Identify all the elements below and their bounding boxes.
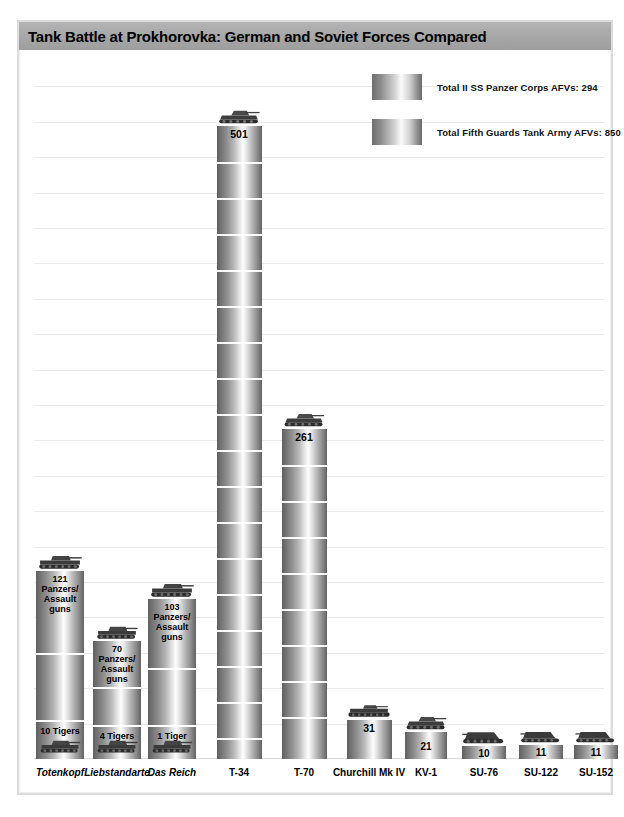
bar-segment-panzers-label: 103Panzers/Assault guns (148, 602, 196, 642)
bar-ring (217, 558, 262, 560)
bar-ring (282, 465, 327, 467)
bar-ring (217, 666, 262, 668)
bar-column-dasreich[interactable]: 103Panzers/Assault guns1 Tiger (148, 599, 196, 759)
chart-title-band: Tank Battle at Prokhorovka: German and S… (19, 22, 611, 50)
bar-ring (217, 342, 262, 344)
chart-page: Tank Battle at Prokhorovka: German and S… (0, 0, 624, 817)
bar-column-su76[interactable]: 10 (462, 746, 506, 759)
tank-icon-churchill (347, 701, 391, 719)
bar-group: 121Panzers/Assault guns10 Tigers70 Panze… (34, 51, 604, 759)
bar-ring (217, 702, 262, 704)
x-axis-label-dasreich: Das Reich (148, 767, 196, 778)
x-axis-label-su152: SU-152 (579, 767, 613, 778)
bar-rings (217, 126, 262, 759)
bar-segment-panzers: 121Panzers/Assault guns (36, 571, 84, 720)
bar-kv1: 21 (405, 732, 447, 759)
bar-ring (217, 414, 262, 416)
bar-ring (217, 450, 262, 452)
bar-column-kv1[interactable]: 21 (405, 732, 447, 759)
tiger-tank-icon (39, 736, 81, 758)
bar-ring (282, 717, 327, 719)
chart-title: Tank Battle at Prokhorovka: German and S… (19, 28, 486, 45)
bar-ring (217, 486, 262, 488)
tank-icon-t34 (217, 107, 261, 125)
tiger-tank-icon (151, 736, 193, 758)
bar-segment-panzers: 103Panzers/Assault guns (148, 599, 196, 725)
bar-t70: 261 (282, 429, 327, 759)
bar-ring (282, 645, 327, 647)
x-axis-label-su76: SU-76 (470, 767, 498, 778)
bar-ring (36, 653, 84, 655)
bar-su122: 11 (519, 745, 563, 759)
bar-value-label-t34: 501 (217, 129, 262, 141)
bar-t34: 501 (217, 126, 262, 759)
x-axis-label-su122: SU-122 (524, 767, 558, 778)
x-axis-label-t34: T-34 (229, 767, 249, 778)
bar-column-churchill[interactable]: 31 (347, 720, 392, 759)
bar-column-liebstandarte[interactable]: 70 Panzers/Assault guns4 Tigers (93, 641, 141, 760)
x-axis-labels: TotenkopfLiebstandarteDas ReichT-34T-70C… (34, 767, 624, 787)
bar-churchill: 31 (347, 720, 392, 759)
bar-value-label-churchill: 31 (347, 723, 392, 735)
tank-icon-totenkopf (37, 551, 83, 570)
tiger-tank-icon (96, 736, 138, 758)
bar-su76: 10 (462, 746, 506, 759)
bar-ring (148, 668, 196, 670)
bar-rings (282, 429, 327, 759)
bar-segment-panzers-label: 70 Panzers/Assault guns (93, 644, 141, 684)
bar-segment-tigers: 10 Tigers (36, 720, 84, 759)
bar-value-label-su122: 11 (519, 747, 563, 758)
bar-ring (217, 630, 262, 632)
bar-su152: 11 (574, 745, 618, 759)
bar-segment-tigers: 1 Tiger (148, 725, 196, 759)
x-axis-label-t70: T-70 (294, 767, 314, 778)
tank-icon-su152 (574, 726, 618, 744)
bar-ring (217, 234, 262, 236)
tank-icon-liebstandarte (95, 622, 139, 640)
bar-value-label-su76: 10 (462, 747, 506, 758)
bar-ring (217, 198, 262, 200)
bar-ring (282, 573, 327, 575)
bar-ring (282, 501, 327, 503)
bar-ring (217, 306, 262, 308)
bar-segment-tigers: 4 Tigers (93, 725, 141, 759)
bar-ring (217, 738, 262, 740)
bar-value-label-t70: 261 (282, 432, 327, 444)
bar-segment-panzers: 70 Panzers/Assault guns (93, 641, 141, 726)
bar-ring (217, 594, 262, 596)
bar-column-totenkopf[interactable]: 121Panzers/Assault guns10 Tigers (36, 571, 84, 759)
tank-icon-kv1 (405, 713, 447, 731)
bar-ring (217, 162, 262, 164)
bar-segment-panzers-label: 121Panzers/Assault guns (36, 574, 84, 614)
tank-icon-su122 (519, 726, 563, 744)
x-axis-label-kv1: KV-1 (415, 767, 437, 778)
bar-column-su122[interactable]: 11 (519, 745, 563, 759)
x-axis-label-churchill: Churchill Mk IV (333, 767, 405, 778)
bar-ring (93, 687, 141, 689)
bar-segment-tigers-label: 10 Tigers (36, 726, 84, 736)
tank-icon-t70 (283, 410, 325, 428)
tank-icon-dasreich (149, 579, 195, 598)
tank-icon-su76 (461, 726, 507, 745)
bar-ring (217, 522, 262, 524)
x-axis-label-liebstandarte: Liebstandarte (84, 767, 150, 778)
bar-ring (282, 537, 327, 539)
bar-value-label-kv1: 21 (405, 740, 447, 751)
x-axis-label-totenkopf: Totenkopf (36, 767, 84, 778)
bar-ring (282, 681, 327, 683)
bar-column-t34[interactable]: 501 (217, 126, 262, 759)
bar-ring (282, 609, 327, 611)
bar-ring (217, 378, 262, 380)
bar-ring (217, 270, 262, 272)
plot-area: Total II SS Panzer Corps AFVs: 294 Total… (20, 51, 610, 759)
bar-column-su152[interactable]: 11 (574, 745, 618, 759)
bar-column-t70[interactable]: 261 (282, 429, 327, 759)
bar-value-label-su152: 11 (574, 747, 618, 758)
